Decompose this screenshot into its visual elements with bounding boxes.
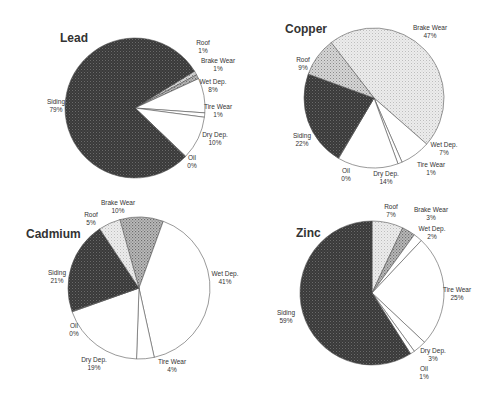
- slice-label-tire-wear: Tire Wear1%: [417, 161, 446, 176]
- slice-label-dry-dep: Dry Dep.14%: [373, 170, 399, 185]
- pie-copper: [304, 28, 444, 168]
- pie-lead: [65, 38, 205, 178]
- pie-zinc: [300, 221, 444, 365]
- chart-title-zinc: Zinc: [296, 226, 321, 240]
- slice-label-brake-wear: Brake Wear47%: [413, 24, 448, 39]
- slice-label-oil: Oil0%: [341, 167, 351, 182]
- slice-label-tire-wear: Tire Wear1%: [204, 103, 233, 118]
- slice-label-wet-dep: Wet Dep.41%: [212, 270, 239, 285]
- slice-label-roof: Roof1%: [196, 39, 210, 54]
- pie-charts-figure: Roof1%Brake Wear1%Wet Dep.8%Tire Wear1%D…: [0, 0, 494, 398]
- slice-label-oil: Oil1%: [419, 365, 429, 380]
- slice-label-wet-dep: Wet Dep.8%: [200, 78, 227, 93]
- slice-label-roof: Roof5%: [84, 211, 98, 226]
- slice-label-roof: Roof7%: [384, 203, 398, 218]
- chart-title-copper: Copper: [285, 22, 327, 36]
- slice-label-wet-dep: Wet Dep.7%: [431, 141, 458, 156]
- chart-title-cadmium: Cadmium: [26, 227, 81, 241]
- slice-label-wet-dep: Wet Dep.2%: [419, 225, 446, 240]
- slice-label-tire-wear: Tire Wear4%: [158, 358, 187, 373]
- slice-label-siding: Siding79%: [47, 98, 65, 113]
- slice-label-siding: Siding22%: [293, 132, 311, 147]
- pie-cadmium: [68, 217, 210, 359]
- slice-label-dry-dep: Dry Dep.10%: [202, 131, 228, 146]
- slice-label-tire-wear: Tire Wear25%: [443, 286, 472, 301]
- slice-label-brake-wear: Brake Wear1%: [201, 57, 236, 72]
- slice-label-oil: Oil0%: [69, 322, 79, 337]
- slice-label-roof: Roof9%: [296, 56, 310, 71]
- slice-label-dry-dep: Dry Dep.3%: [420, 347, 446, 362]
- slice-label-siding: Siding21%: [48, 269, 66, 284]
- slice-label-dry-dep: Dry Dep.19%: [81, 356, 107, 371]
- slice-label-oil: Oil0%: [187, 154, 197, 169]
- slice-label-brake-wear: Brake Wear10%: [101, 199, 136, 214]
- chart-title-lead: Lead: [60, 31, 88, 45]
- slice-label-brake-wear: Brake Wear3%: [414, 206, 449, 221]
- slice-label-siding: Siding59%: [277, 309, 295, 324]
